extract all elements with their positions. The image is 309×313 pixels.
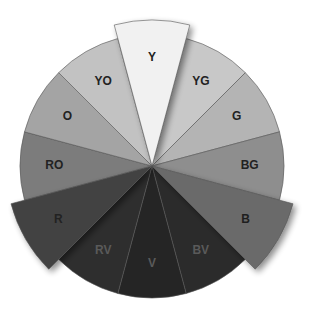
segment-label-yo: YO <box>95 74 112 88</box>
segment-label-yg: YG <box>192 74 209 88</box>
segment-label-ro: RO <box>45 158 63 172</box>
segment-label-o: O <box>63 109 72 123</box>
segment-label-g: G <box>232 109 241 123</box>
segment-label-r: R <box>54 212 63 226</box>
segment-label-bv: BV <box>192 243 209 257</box>
segment-label-v: V <box>148 256 156 270</box>
color-wheel: YYGGBGBBVVRVRROOYO <box>0 0 309 313</box>
segment-label-rv: RV <box>95 243 111 257</box>
segment-label-y: Y <box>148 50 156 64</box>
segment-label-bg: BG <box>241 158 259 172</box>
segment-label-b: B <box>241 212 250 226</box>
